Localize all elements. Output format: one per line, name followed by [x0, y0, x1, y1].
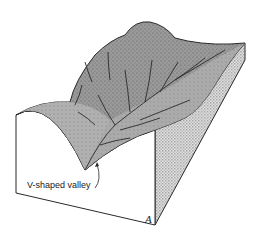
block-diagram-drawing [0, 0, 262, 238]
valley-label: V-shaped valley [27, 180, 91, 190]
corner-label: A [145, 213, 152, 225]
v-shaped-valley-block-diagram: V-shaped valley A [0, 0, 262, 238]
